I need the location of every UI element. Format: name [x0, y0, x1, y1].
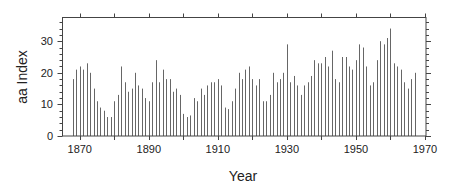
y-tick-label: 20 — [41, 67, 53, 79]
x-tick-label: 1930 — [275, 143, 299, 155]
x-tick-label: 1870 — [68, 143, 92, 155]
x-tick-label: 1910 — [206, 143, 230, 155]
plot-frame — [63, 18, 427, 137]
y-tick-label: 30 — [41, 35, 53, 47]
y-axis-title: aa Index — [14, 50, 30, 104]
x-tick-label: 1950 — [344, 143, 368, 155]
axis-ticks — [58, 14, 432, 141]
x-tick-label: 1890 — [137, 143, 161, 155]
x-tick-label: 1970 — [413, 143, 437, 155]
y-tick-label: 0 — [47, 130, 53, 142]
bar-series — [74, 29, 416, 136]
aa-index-chart: 187018901910193019501970 0102030 Year aa… — [0, 0, 451, 190]
x-tick-labels: 187018901910193019501970 — [68, 143, 438, 155]
y-tick-label: 10 — [41, 98, 53, 110]
x-axis-title: Year — [229, 168, 258, 184]
y-tick-labels: 0102030 — [41, 35, 53, 142]
